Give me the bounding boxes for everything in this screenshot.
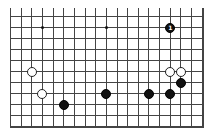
grid-vertical-line bbox=[53, 8, 54, 127]
grid-horizontal-line bbox=[10, 38, 204, 39]
grid-horizontal-line bbox=[10, 104, 204, 105]
grid-vertical-line bbox=[85, 8, 86, 127]
grid-horizontal-line bbox=[10, 49, 204, 50]
grid-vertical-line bbox=[148, 8, 149, 127]
grid-vertical-line bbox=[10, 8, 11, 127]
grid-vertical-line bbox=[202, 8, 204, 127]
black-stone bbox=[176, 78, 186, 88]
black-stone: 1 bbox=[165, 23, 175, 33]
white-stone bbox=[37, 89, 47, 99]
black-stone bbox=[59, 100, 69, 110]
white-stone bbox=[27, 67, 37, 77]
grid-horizontal-line bbox=[10, 60, 204, 61]
grid-vertical-line bbox=[191, 8, 192, 127]
grid-horizontal-line bbox=[10, 16, 204, 17]
grid-vertical-line bbox=[21, 8, 22, 127]
black-stone bbox=[144, 89, 154, 99]
go-board: 1 bbox=[0, 0, 209, 133]
grid-horizontal-line bbox=[10, 126, 204, 128]
star-point bbox=[41, 26, 44, 29]
black-stone bbox=[165, 89, 175, 99]
white-stone bbox=[176, 67, 186, 77]
grid-horizontal-line bbox=[10, 115, 204, 116]
star-point bbox=[105, 26, 108, 29]
move-number: 1 bbox=[166, 24, 174, 32]
black-stone bbox=[101, 89, 111, 99]
grid-vertical-line bbox=[95, 8, 96, 127]
grid-vertical-line bbox=[117, 8, 118, 127]
grid-vertical-line bbox=[74, 8, 75, 127]
grid-horizontal-line bbox=[10, 82, 204, 83]
grid-vertical-line bbox=[138, 8, 139, 127]
grid-vertical-line bbox=[127, 8, 128, 127]
grid-vertical-line bbox=[159, 8, 160, 127]
white-stone bbox=[165, 67, 175, 77]
